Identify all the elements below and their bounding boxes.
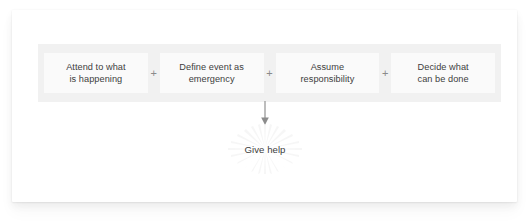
stage-box-decide: Decide what can be done — [391, 53, 495, 93]
figure-root: Attend to what is happening + Define eve… — [0, 0, 529, 222]
stage-band: Attend to what is happening + Define eve… — [38, 44, 501, 102]
plus-operator-3: + — [379, 68, 391, 79]
plus-operator-2: + — [264, 68, 276, 79]
stage-box-assume: Assume responsibility — [276, 53, 380, 93]
stage-box-define: Define event as emergency — [160, 53, 264, 93]
stage-box-attend: Attend to what is happening — [44, 53, 148, 93]
plus-operator-1: + — [148, 68, 160, 79]
outcome-label: Give help — [205, 143, 325, 156]
